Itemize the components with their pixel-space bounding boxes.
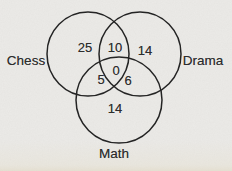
count-chess-only: 25 <box>78 41 92 54</box>
count-drama-math: 6 <box>124 74 131 87</box>
count-drama-only: 14 <box>138 44 152 57</box>
count-math-only: 14 <box>108 102 122 115</box>
venn-diagram-figure: 25 10 14 5 0 6 14 Chess Drama Math <box>0 0 232 171</box>
count-chess-math: 5 <box>97 73 104 86</box>
drama-set-label: Drama <box>183 54 224 68</box>
chess-set-label: Chess <box>7 54 45 68</box>
count-chess-drama: 10 <box>108 41 122 54</box>
math-set-label: Math <box>99 147 129 161</box>
count-all-three: 0 <box>112 64 119 77</box>
